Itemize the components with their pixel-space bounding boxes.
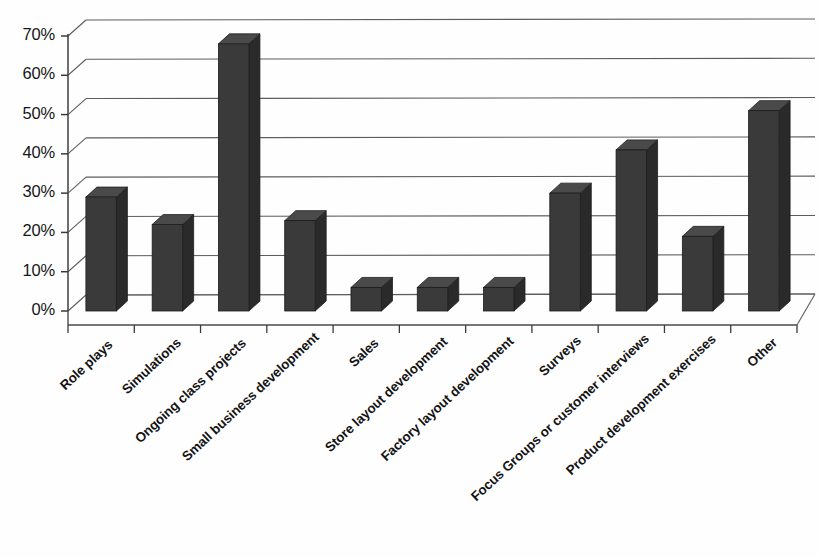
gridline-connector xyxy=(68,295,86,311)
y-axis-tick-label: 60% xyxy=(0,64,55,83)
y-axis-tick-label: 20% xyxy=(0,221,55,240)
gridline-connector xyxy=(68,138,86,154)
bar-column xyxy=(550,183,591,311)
bar-side-face xyxy=(713,226,724,311)
bar-side-face xyxy=(315,211,326,311)
bar-front-face xyxy=(749,111,779,311)
bar-column xyxy=(218,34,259,311)
bar-column xyxy=(417,277,458,311)
y-axis-tick-label: 40% xyxy=(0,143,55,162)
bar-front-face xyxy=(152,225,182,311)
bar-front-face xyxy=(218,44,248,311)
bar-column xyxy=(484,277,525,311)
bar-front-face xyxy=(86,197,116,311)
bar-front-face xyxy=(550,193,580,311)
y-axis-tick-label: 30% xyxy=(0,182,55,201)
gridline xyxy=(86,58,815,59)
bar-column xyxy=(285,211,326,311)
bar-side-face xyxy=(116,187,127,311)
y-axis-tick-label: 0% xyxy=(0,300,55,319)
bar-front-face xyxy=(351,287,381,311)
bar-front-face xyxy=(417,287,447,311)
gridline-connector xyxy=(68,99,86,115)
bar-chart-plot: 0%10%20%30%40%50%60%70%Role playsSimulat… xyxy=(0,0,819,557)
bar-column xyxy=(616,140,657,311)
chart-container: 0%10%20%30%40%50%60%70%Role playsSimulat… xyxy=(0,0,819,557)
gridline-connector xyxy=(68,177,86,193)
floor-right-edge xyxy=(797,294,815,325)
bar-side-face xyxy=(249,34,260,311)
chart-canvas xyxy=(0,0,819,557)
y-axis-tick-label: 10% xyxy=(0,261,55,280)
gridline xyxy=(86,137,815,138)
y-axis-tick-label: 50% xyxy=(0,104,55,123)
gridline xyxy=(86,19,815,20)
gridline-connector xyxy=(68,216,86,232)
gridline-connector xyxy=(68,59,86,75)
bar-column xyxy=(749,101,790,311)
bar-front-face xyxy=(285,221,315,311)
gridline xyxy=(86,215,815,216)
gridline-connector xyxy=(68,256,86,272)
bar-side-face xyxy=(779,101,790,311)
bar-front-face xyxy=(682,236,712,311)
bar-front-face xyxy=(616,150,646,311)
bar-side-face xyxy=(183,215,194,311)
bar-column xyxy=(152,215,193,311)
bar-side-face xyxy=(580,183,591,311)
bar-column xyxy=(682,226,723,311)
y-axis-tick-label: 70% xyxy=(0,25,55,44)
bar-front-face xyxy=(484,287,514,311)
gridline xyxy=(86,176,815,177)
gridline-connector xyxy=(68,20,86,36)
gridline xyxy=(86,98,815,99)
bar-column xyxy=(86,187,127,311)
bar-side-face xyxy=(647,140,658,311)
bar-column xyxy=(351,277,392,311)
